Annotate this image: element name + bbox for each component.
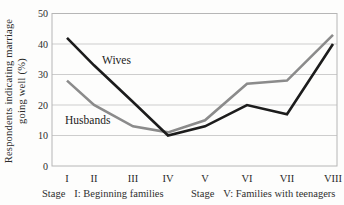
x-tick-label-VIII: VIII bbox=[324, 173, 343, 184]
plot-frame bbox=[52, 14, 337, 167]
y-tick-label-40: 40 bbox=[38, 39, 48, 50]
marriage-satisfaction-chart: Respondents indicating marriage going we… bbox=[0, 0, 344, 205]
footnote-left-prefix: Stage bbox=[42, 188, 65, 199]
husbands-series-label: Husbands bbox=[65, 114, 110, 126]
x-tick-label-V: V bbox=[201, 173, 209, 184]
footnote-right-text: V: Families with teenagers bbox=[223, 188, 335, 199]
x-tick-label-VI: VI bbox=[241, 173, 253, 184]
y-tick-label-0: 0 bbox=[43, 161, 48, 172]
x-tick-label-IV: IV bbox=[162, 173, 173, 184]
y-tick-label-50: 50 bbox=[38, 8, 48, 19]
footnote-stage-1: Stage I: Beginning families bbox=[42, 188, 164, 199]
y-tick-label-10: 10 bbox=[38, 130, 48, 141]
x-tick-label-I: I bbox=[65, 173, 69, 184]
x-tick-label-VII: VII bbox=[280, 173, 295, 184]
footnote-left-text: I: Beginning families bbox=[74, 188, 163, 199]
plot-area: 01020304050IIIIIIIVVVIVIIVIII bbox=[0, 0, 344, 205]
y-tick-label-30: 30 bbox=[38, 69, 48, 80]
y-tick-label-20: 20 bbox=[38, 100, 48, 111]
wives-series-label: Wives bbox=[102, 54, 131, 66]
footnote-stage-5: Stage V: Families with teenagers bbox=[191, 188, 335, 199]
x-tick-label-III: III bbox=[128, 173, 139, 184]
x-tick-label-II: II bbox=[91, 173, 98, 184]
footnote-right-prefix: Stage bbox=[191, 188, 214, 199]
